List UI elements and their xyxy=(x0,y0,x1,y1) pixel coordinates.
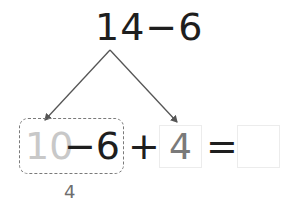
intermediate-result: 4 xyxy=(64,181,75,203)
subtract-six: −6 xyxy=(64,124,120,168)
split-arrows-icon xyxy=(0,0,294,207)
plus-sign: + xyxy=(128,124,160,168)
answer-input-box[interactable] xyxy=(237,125,280,168)
remainder-box[interactable]: 4 xyxy=(159,125,202,168)
equals-sign: = xyxy=(206,124,238,168)
